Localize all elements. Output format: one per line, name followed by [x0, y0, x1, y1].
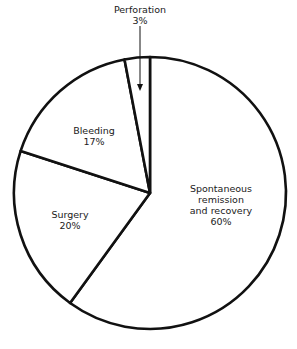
- label-spontaneous-line2: remission: [183, 194, 259, 205]
- label-perforation-value: 3%: [110, 15, 170, 26]
- label-bleeding: Bleeding 17%: [64, 125, 124, 147]
- label-surgery: Surgery 20%: [40, 209, 100, 231]
- label-perforation-name: Perforation: [110, 4, 170, 15]
- label-bleeding-name: Bleeding: [64, 125, 124, 136]
- label-surgery-name: Surgery: [40, 209, 100, 220]
- label-spontaneous-line3: and recovery: [183, 205, 259, 216]
- label-perforation: Perforation 3%: [110, 4, 170, 26]
- pie-chart: [0, 0, 297, 349]
- label-spontaneous-line1: Spontaneous: [183, 183, 259, 194]
- label-spontaneous-value: 60%: [183, 216, 259, 227]
- label-surgery-value: 20%: [40, 220, 100, 231]
- label-spontaneous: Spontaneous remission and recovery 60%: [183, 183, 259, 227]
- label-bleeding-value: 17%: [64, 136, 124, 147]
